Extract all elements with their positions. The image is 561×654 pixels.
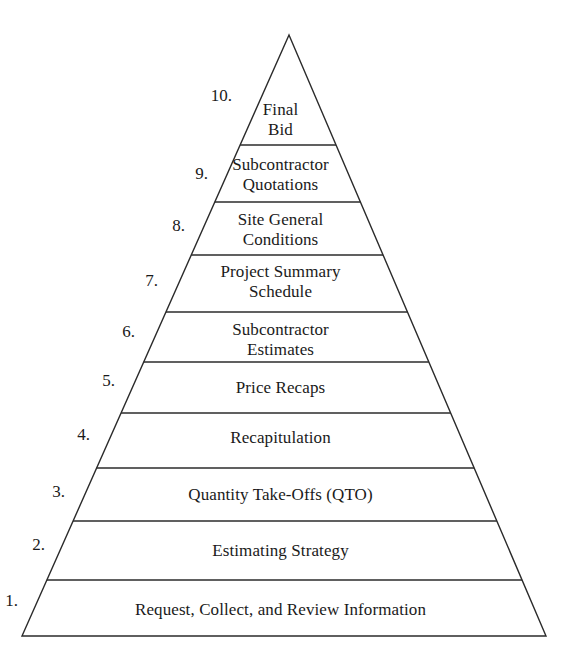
estimating-pyramid-diagram: Final BidSubcontractor QuotationsSite Ge… — [0, 0, 561, 654]
pyramid-outline-svg — [0, 0, 561, 654]
pyramid-body — [22, 35, 546, 636]
